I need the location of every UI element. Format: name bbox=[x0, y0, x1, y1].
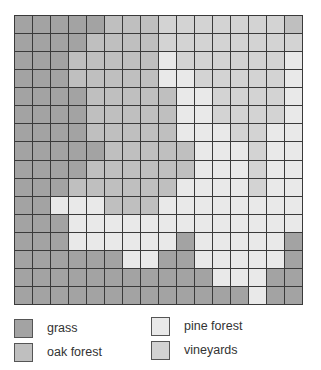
grid-cell-oak-forest bbox=[87, 106, 104, 123]
grid-cell-pine-forest bbox=[231, 233, 248, 250]
grid-cell-pine-forest bbox=[177, 215, 194, 232]
grid-cell-pine-forest bbox=[231, 215, 248, 232]
grid-cell-grass bbox=[51, 106, 68, 123]
grid-cell-grass bbox=[159, 269, 176, 286]
grid-cell-oak-forest bbox=[123, 70, 140, 87]
grid-cell-grass bbox=[51, 34, 68, 51]
grid-cell-pine-forest bbox=[213, 179, 230, 196]
grid-cell-oak-forest bbox=[105, 16, 122, 33]
grid-cell-pine-forest bbox=[69, 215, 86, 232]
grid-cell-oak-forest bbox=[123, 124, 140, 141]
grid-cell-grass bbox=[15, 88, 32, 105]
grid-cell-oak-forest bbox=[159, 106, 176, 123]
grid-cell-oak-forest bbox=[141, 70, 158, 87]
grid-cell-pine-forest bbox=[195, 179, 212, 196]
grid-cell-grass bbox=[69, 142, 86, 159]
legend-item-vineyards: vineyards bbox=[151, 340, 238, 360]
grid-cell-oak-forest bbox=[87, 161, 104, 178]
grid-cell-grass bbox=[33, 88, 50, 105]
grid-cell-grass bbox=[123, 269, 140, 286]
grid-cell-oak-forest bbox=[141, 34, 158, 51]
grid-cell-grass bbox=[15, 179, 32, 196]
grid-cell-vineyards bbox=[267, 34, 284, 51]
grid-cell-pine-forest bbox=[159, 197, 176, 214]
grid-cell-oak-forest bbox=[123, 197, 140, 214]
grid-cell-oak-forest bbox=[123, 88, 140, 105]
grid-cell-pine-forest bbox=[123, 251, 140, 268]
grid-cell-grass bbox=[51, 124, 68, 141]
grid-cell-oak-forest bbox=[87, 88, 104, 105]
grid-cell-vineyards bbox=[213, 106, 230, 123]
grid-cell-vineyards bbox=[177, 34, 194, 51]
grid-cell-pine-forest bbox=[195, 142, 212, 159]
grid-cell-grass bbox=[33, 52, 50, 69]
grid-cell-grass bbox=[285, 233, 302, 250]
grid-cell-grass bbox=[69, 124, 86, 141]
grid-cell-grass bbox=[87, 16, 104, 33]
legend: grass oak forest pine forest vineyards bbox=[14, 316, 314, 366]
grid-cell-oak-forest bbox=[105, 106, 122, 123]
grid-cell-grass bbox=[15, 124, 32, 141]
grid-cell-vineyards bbox=[177, 52, 194, 69]
vineyards-swatch bbox=[151, 341, 170, 360]
grid-cell-grass bbox=[69, 161, 86, 178]
grid-cell-pine-forest bbox=[267, 124, 284, 141]
grid-cell-vineyards bbox=[231, 106, 248, 123]
grid-cell-pine-forest bbox=[213, 161, 230, 178]
grid-cell-vineyards bbox=[267, 52, 284, 69]
grid-cell-vineyards bbox=[249, 106, 266, 123]
grid-cell-pine-forest bbox=[231, 161, 248, 178]
grid-cell-grass bbox=[195, 287, 212, 304]
grid-cell-vineyards bbox=[249, 70, 266, 87]
grid-cell-grass bbox=[51, 142, 68, 159]
grid-cell-oak-forest bbox=[105, 179, 122, 196]
grid-cell-grass bbox=[69, 106, 86, 123]
grid-cell-pine-forest bbox=[285, 215, 302, 232]
grid-cell-pine-forest bbox=[123, 233, 140, 250]
grid-cell-pine-forest bbox=[141, 251, 158, 268]
grid-cell-vineyards bbox=[249, 16, 266, 33]
grid-cell-grass bbox=[51, 179, 68, 196]
grid-cell-oak-forest bbox=[123, 161, 140, 178]
grid-cell-pine-forest bbox=[195, 197, 212, 214]
grid-cell-grass bbox=[33, 233, 50, 250]
grid-cell-oak-forest bbox=[87, 70, 104, 87]
grass-swatch bbox=[14, 319, 33, 338]
grid-cell-pine-forest bbox=[267, 142, 284, 159]
grid-cell-grass bbox=[231, 287, 248, 304]
grid-cell-grass bbox=[159, 287, 176, 304]
grid-cell-oak-forest bbox=[105, 124, 122, 141]
grid-cell-pine-forest bbox=[105, 233, 122, 250]
grid-cell-grass bbox=[285, 251, 302, 268]
grid-cell-grass bbox=[267, 269, 284, 286]
grid-cell-pine-forest bbox=[195, 88, 212, 105]
legend-label: vineyards bbox=[184, 343, 238, 357]
grid-cell-oak-forest bbox=[105, 52, 122, 69]
grid-cell-grass bbox=[177, 233, 194, 250]
grid-cell-pine-forest bbox=[213, 142, 230, 159]
grid-cell-grass bbox=[285, 287, 302, 304]
grid-cell-vineyards bbox=[267, 88, 284, 105]
legend-item-grass: grass bbox=[14, 318, 78, 338]
grid-cell-pine-forest bbox=[177, 197, 194, 214]
grid-cell-vineyards bbox=[249, 179, 266, 196]
grid-cell-grass bbox=[15, 16, 32, 33]
grid-cell-vineyards bbox=[231, 88, 248, 105]
grid-cell-pine-forest bbox=[177, 124, 194, 141]
grid-cell-pine-forest bbox=[267, 251, 284, 268]
grid-cell-vineyards bbox=[213, 70, 230, 87]
grid-cell-grass bbox=[87, 142, 104, 159]
grid-cell-vineyards bbox=[231, 16, 248, 33]
grid-cell-pine-forest bbox=[213, 215, 230, 232]
grid-cell-grass bbox=[15, 106, 32, 123]
grid-cell-grass bbox=[33, 34, 50, 51]
grid-cell-vineyards bbox=[195, 34, 212, 51]
grid-cell-grass bbox=[33, 269, 50, 286]
grid-cell-grass bbox=[15, 269, 32, 286]
grid-cell-oak-forest bbox=[87, 34, 104, 51]
grid-cell-oak-forest bbox=[105, 197, 122, 214]
grid-cell-vineyards bbox=[231, 70, 248, 87]
grid-cell-grass bbox=[141, 287, 158, 304]
grid-cell-oak-forest bbox=[141, 52, 158, 69]
grid-cell-oak-forest bbox=[141, 124, 158, 141]
